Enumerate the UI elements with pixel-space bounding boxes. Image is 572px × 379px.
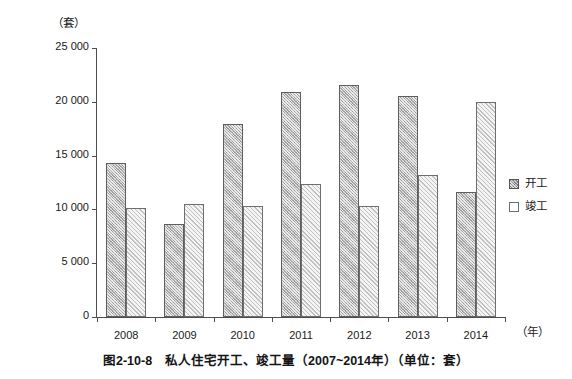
legend-label-start: 开工 [525,178,547,190]
x-axis-line [96,317,505,318]
plot-area: 05 00010 00015 00020 00025 000 200820092… [97,48,505,317]
y-tick-mark [92,48,97,49]
legend-item-start[interactable]: 开工 [509,172,547,195]
y-axis-line [96,48,97,317]
figure-container: （套） 05 00010 00015 00020 00025 000 20082… [0,0,572,379]
bar-2010-start [223,124,243,317]
bar-2014-start [456,192,476,317]
x-tick-label-2014: 2014 [464,329,488,341]
legend-item-finish[interactable]: 竣工 [509,195,547,218]
bar-2011-start [281,92,301,317]
x-tick-label-2013: 2013 [405,329,429,341]
x-tick-mark [214,317,215,322]
y-tick-label: 10 000 [55,201,89,213]
bar-2011-finish [301,184,321,317]
y-tick-label: 5 000 [61,255,89,267]
x-tick-label-2008: 2008 [114,329,138,341]
chart-legend: 开工 竣工 [509,172,547,218]
x-tick-mark [505,317,506,322]
y-tick-mark [92,209,97,210]
bar-2014-finish [476,102,496,317]
bar-2008-start [106,163,126,317]
y-tick-label: 25 000 [55,40,89,52]
x-tick-label-2011: 2011 [289,329,313,341]
hatched-gray-swatch-icon [509,179,519,189]
x-tick-label-2012: 2012 [347,329,371,341]
y-tick-mark [92,263,97,264]
bar-2009-start [164,224,184,317]
y-tick-mark [92,102,97,103]
y-tick-mark [92,156,97,157]
x-tick-mark [155,317,156,322]
y-tick-label: 15 000 [55,148,89,160]
legend-label-finish: 竣工 [525,201,547,213]
y-axis-unit-label: （套） [52,14,85,30]
y-tick-label: 20 000 [55,94,89,106]
x-tick-label-2010: 2010 [230,329,254,341]
x-tick-label-2009: 2009 [172,329,196,341]
x-axis-unit-label: （年） [516,323,549,339]
bar-2013-start [398,96,418,317]
figure-caption: 图2-10-8 私人住宅开工、竣工量（2007~2014年）（单位：套） [0,350,572,369]
bar-2010-finish [243,206,263,317]
y-tick-label: 0 [83,309,89,321]
bar-2012-finish [359,206,379,317]
x-tick-mark [447,317,448,322]
bar-2012-start [339,85,359,317]
bar-2013-finish [418,175,438,317]
x-tick-mark [388,317,389,322]
bar-2008-finish [126,208,146,317]
white-swatch-icon [509,202,519,212]
x-tick-mark [330,317,331,322]
x-tick-mark [97,317,98,322]
x-tick-mark [272,317,273,322]
bar-2009-finish [184,204,204,317]
